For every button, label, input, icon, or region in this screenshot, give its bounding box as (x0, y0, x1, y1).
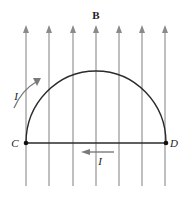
point-d-dot (164, 141, 169, 146)
point-c-label: C (11, 137, 19, 149)
field-arrowhead-icon (23, 25, 29, 33)
field-arrowhead-icon (116, 25, 122, 33)
field-arrowhead-icon (162, 25, 168, 33)
field-arrowhead-icon (139, 25, 145, 33)
point-c-dot (24, 141, 29, 146)
field-label: B (92, 9, 100, 21)
arrow-left-icon (81, 149, 90, 155)
field-arrowhead-icon (46, 25, 52, 33)
field-arrowhead-icon (70, 25, 76, 33)
arrow-up-right-icon (33, 78, 41, 86)
field-arrowhead-icon (93, 25, 99, 33)
current-label-diameter: I (97, 155, 103, 167)
point-d-label: D (169, 137, 178, 149)
semicircle-loop-diagram: B C D I I (0, 0, 190, 197)
magnetic-field-lines (23, 25, 168, 186)
